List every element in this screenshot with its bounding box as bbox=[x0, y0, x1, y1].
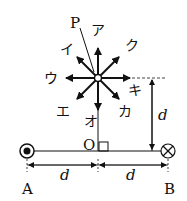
wire-b-label: B bbox=[164, 182, 175, 197]
diagram: P ア イ ウ エ オ カ キ ク O d d d A B bbox=[0, 0, 187, 201]
wire-a-label: A bbox=[22, 182, 33, 197]
arrow-label-ka: カ bbox=[118, 104, 132, 118]
arrow-label-a: ア bbox=[91, 23, 105, 37]
point-p-label: P bbox=[70, 16, 80, 31]
arrow-label-e: エ bbox=[56, 104, 70, 118]
point-p-marker bbox=[95, 75, 102, 82]
arrow-label-i: イ bbox=[60, 42, 74, 56]
distance-label-left: d bbox=[60, 168, 70, 183]
arrow-label-o: オ bbox=[84, 114, 98, 128]
distance-label-vertical: d bbox=[158, 108, 168, 123]
arrow-label-ki: キ bbox=[128, 83, 142, 97]
right-angle-mark bbox=[99, 142, 108, 151]
arrow-label-u: ウ bbox=[44, 71, 58, 85]
arrow-label-ku: ク bbox=[125, 38, 139, 52]
origin-label: O bbox=[83, 138, 95, 153]
distance-label-right: d bbox=[126, 168, 136, 183]
